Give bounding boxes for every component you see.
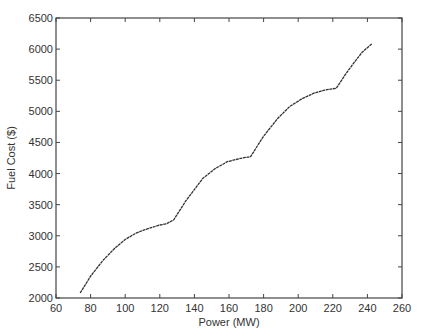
y-tick-label: 6500 [29,12,53,24]
x-tick-label: 140 [185,302,203,314]
data-series [80,44,372,293]
y-axis-ticks: 2000250030003500400045005000550060006500 [29,12,402,304]
x-tick-label: 80 [84,302,96,314]
y-tick-label: 5500 [29,74,53,86]
y-tick-label: 4000 [29,168,53,180]
x-tick-label: 200 [289,302,307,314]
y-tick-label: 2500 [29,261,53,273]
y-axis-label: Fuel Cost ($) [5,126,17,190]
y-tick-label: 3500 [29,199,53,211]
x-tick-label: 260 [393,302,411,314]
x-tick-label: 120 [151,302,169,314]
x-axis-label: Power (MW) [198,316,259,328]
x-tick-label: 160 [220,302,238,314]
y-tick-label: 3000 [29,230,53,242]
x-tick-label: 180 [254,302,272,314]
y-tick-label: 2000 [29,292,53,304]
y-tick-label: 5000 [29,105,53,117]
x-tick-label: 240 [358,302,376,314]
fuel-cost-chart: 6080100120140160180200220240260 20002500… [0,0,422,336]
x-axis-ticks: 6080100120140160180200220240260 [50,18,411,314]
x-tick-label: 220 [324,302,342,314]
fuel-cost-line [80,44,372,293]
x-tick-label: 100 [116,302,134,314]
plot-frame [56,18,402,298]
axes-box [56,18,402,298]
y-tick-label: 4500 [29,136,53,148]
y-tick-label: 6000 [29,43,53,55]
